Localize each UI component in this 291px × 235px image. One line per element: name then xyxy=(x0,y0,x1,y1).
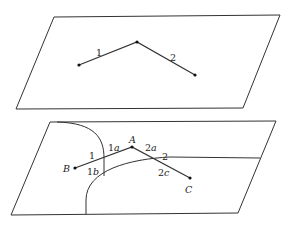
point-a xyxy=(130,145,133,148)
label-1: 1 xyxy=(89,150,95,161)
label-2a: 2a xyxy=(145,142,157,153)
label-1a: 1a xyxy=(108,142,120,153)
label-c: C xyxy=(185,184,193,195)
label-2: 2 xyxy=(162,151,168,162)
label-a: A xyxy=(128,134,136,145)
top-point-left xyxy=(77,63,80,66)
top-plane: 1 2 xyxy=(16,15,280,109)
point-c xyxy=(188,176,191,179)
top-plane-outline xyxy=(16,15,280,109)
label-1b: 1b xyxy=(87,166,99,177)
point-b xyxy=(73,166,76,169)
label-2c: 2c xyxy=(158,167,170,178)
two-planes-diagram: 1 2 B A C 1 1a 1b 2a 2 2c xyxy=(0,0,291,235)
top-label-1: 1 xyxy=(96,47,102,58)
bottom-plane-outline xyxy=(11,121,276,215)
bottom-plane: B A C 1 1a 1b 2a 2 2c xyxy=(11,121,276,215)
top-label-2: 2 xyxy=(170,52,176,63)
boundary-curve-2 xyxy=(86,157,260,214)
top-point-right xyxy=(193,73,196,76)
label-b: B xyxy=(62,163,70,174)
top-point-apex xyxy=(135,40,138,43)
